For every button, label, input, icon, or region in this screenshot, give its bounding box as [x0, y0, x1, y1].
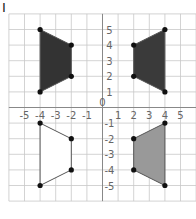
- bottom-left-trapezoid: [40, 123, 71, 185]
- x-tick-label: -4: [35, 110, 45, 121]
- x-tick-label: 3: [146, 110, 152, 121]
- vertex-point: [38, 183, 43, 188]
- origin-label: 0: [99, 97, 105, 108]
- vertex-point: [131, 167, 136, 172]
- y-tick-label: -4: [105, 165, 115, 176]
- vertex-point: [162, 27, 167, 32]
- x-tick-label: -5: [20, 110, 30, 121]
- y-tick-label: 1: [106, 87, 112, 98]
- y-tick-label: -2: [105, 134, 115, 145]
- x-tick-label: -1: [82, 110, 92, 121]
- vertex-point: [38, 121, 43, 126]
- vertex-point: [131, 43, 136, 48]
- y-tick-label: 5: [106, 25, 112, 36]
- vertex-point: [131, 74, 136, 79]
- y-tick-label: -1: [105, 118, 115, 129]
- vertex-point: [38, 89, 43, 94]
- top-left-trapezoid: [40, 30, 71, 92]
- y-tick-label: 2: [106, 71, 112, 82]
- vertex-point: [69, 167, 74, 172]
- vertex-point: [69, 74, 74, 79]
- x-tick-label: 2: [131, 110, 137, 121]
- x-tick-label: -3: [51, 110, 61, 121]
- vertex-point: [162, 183, 167, 188]
- y-tick-label: -5: [105, 181, 115, 192]
- vertex-point: [162, 121, 167, 126]
- x-tick-label: 5: [177, 110, 183, 121]
- top-right-trapezoid: [134, 30, 165, 92]
- vertex-point: [69, 136, 74, 141]
- x-tick-label: 4: [162, 110, 168, 121]
- bottom-right-trapezoid: [134, 123, 165, 185]
- y-tick-label: -3: [105, 149, 115, 160]
- vertex-point: [131, 136, 136, 141]
- coordinate-plane: -5-4-3-2-11234554321-1-2-3-4-50: [0, 0, 196, 219]
- x-tick-label: -2: [66, 110, 76, 121]
- vertex-point: [38, 27, 43, 32]
- vertex-point: [162, 89, 167, 94]
- vertex-point: [69, 43, 74, 48]
- coordinate-grid-figure: I -5-4-3-2-11234554321-1-2-3-4-50: [0, 0, 196, 219]
- y-tick-label: 4: [106, 40, 112, 51]
- question-label: I: [2, 0, 6, 15]
- y-tick-label: 3: [106, 56, 112, 67]
- x-tick-label: 1: [115, 110, 121, 121]
